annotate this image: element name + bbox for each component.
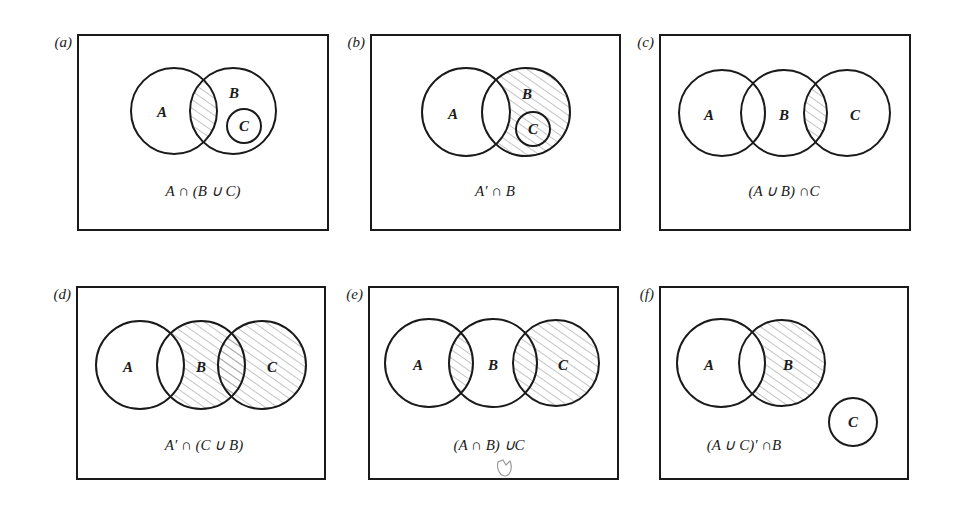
set-label-a: A: [703, 357, 714, 373]
panel-b: (b)ABCA′ ∩ B: [348, 34, 621, 230]
venn-figure: (a)ABCA ∩ (B ∪ C)(b)ABCA′ ∩ B(c)ABC(A ∪ …: [0, 0, 958, 511]
panel-tag: (f): [640, 286, 654, 303]
panel-e: (e)ABC(A ∩ B) ∪C: [346, 286, 618, 479]
set-label-c: C: [558, 357, 569, 373]
universe-box: [660, 35, 910, 230]
panel-d: (d)ABCA′ ∩ (C ∪ B): [54, 286, 326, 479]
panel-c: (c)ABC(A ∪ B) ∩C: [637, 34, 910, 230]
pencil-doodle-mark: [498, 460, 512, 476]
expression-caption: (A ∪ B) ∩C: [748, 183, 820, 200]
set-label-c: C: [528, 121, 539, 137]
expression-caption: A ∩ (B ∪ C): [165, 183, 241, 200]
set-label-a: A: [156, 104, 167, 120]
set-label-b: B: [778, 107, 789, 123]
panel-a: (a)ABCA ∩ (B ∪ C): [55, 34, 329, 230]
set-label-a: A: [447, 106, 458, 122]
panels-group: (a)ABCA ∩ (B ∪ C)(b)ABCA′ ∩ B(c)ABC(A ∪ …: [54, 34, 911, 479]
panel-tag: (e): [346, 286, 363, 303]
expression-caption: A′ ∩ B: [474, 183, 515, 199]
panel-f: (f)ABC(A ∪ C)′ ∩B: [640, 286, 908, 479]
set-label-b: B: [228, 85, 239, 101]
set-label-b: B: [195, 359, 206, 375]
expression-caption: A′ ∩ (C ∪ B): [164, 437, 243, 454]
expression-caption: (A ∪ C)′ ∩B: [707, 437, 781, 454]
panel-tag: (b): [348, 34, 366, 51]
expression-caption: (A ∩ B) ∪C: [453, 437, 525, 454]
panel-tag: (a): [55, 34, 73, 51]
set-label-c: C: [850, 107, 861, 123]
set-label-a: A: [122, 359, 133, 375]
set-label-c: C: [267, 359, 278, 375]
set-label-b: B: [487, 357, 498, 373]
panel-tag: (d): [54, 286, 72, 303]
set-label-b: B: [782, 357, 793, 373]
panel-tag: (c): [637, 34, 654, 51]
set-label-b: B: [521, 86, 532, 102]
set-label-c: C: [239, 118, 250, 134]
set-label-a: A: [412, 357, 423, 373]
set-label-c: C: [848, 414, 859, 430]
set-label-a: A: [703, 107, 714, 123]
